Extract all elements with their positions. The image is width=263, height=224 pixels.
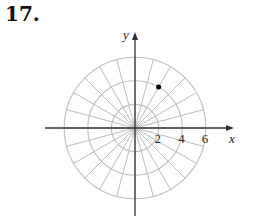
radial-grid-line [117,128,135,196]
radial-grid-line [67,110,135,128]
tick-label: 2 [155,131,162,146]
data-points [156,85,161,90]
radial-grid-line [117,60,135,128]
x-axis-label: x [228,131,235,146]
polar-graph: x y 246 [0,0,263,224]
y-axis-label: y [121,27,129,42]
radial-grid-line [135,60,153,128]
y-axis-arrow-icon [132,32,138,40]
radial-grid-line [135,110,203,128]
radial-grid-line [135,128,153,196]
data-point [156,85,161,90]
tick-label: 6 [202,131,209,146]
radial-grid-line [67,128,135,146]
radial-grid-line [135,128,203,146]
tick-label: 4 [178,131,185,146]
